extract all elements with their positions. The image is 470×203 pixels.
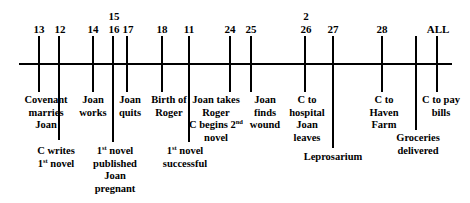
- chapter-25: 25: [236, 23, 266, 35]
- tick-24: [229, 36, 231, 92]
- label-c-to-haven-farm: C to Haven Farm: [369, 94, 398, 132]
- chapter-12: 12: [45, 23, 75, 35]
- tick-unlabeled: [415, 36, 417, 130]
- tick-25: [250, 36, 252, 92]
- label-c-to-pay-bills: C to pay bills: [422, 94, 460, 119]
- chapter-26: 26: [291, 23, 321, 35]
- timeline-axis: [19, 63, 452, 65]
- chapter-17: 17: [113, 23, 143, 35]
- tick-28: [381, 36, 383, 92]
- label-joan-finds-wound: Joan finds wound: [250, 94, 280, 132]
- label-leprosarium: Leprosarium: [304, 151, 363, 164]
- label-covenant-marries-joan: Covenant marries Joan: [24, 94, 67, 132]
- label-joan-quits: Joan quits: [119, 94, 141, 119]
- tick-14: [92, 36, 94, 92]
- tick-all: [436, 36, 438, 92]
- chapter-11: 11: [174, 23, 204, 35]
- label-first-novel-successful: 1st novel successful: [163, 145, 207, 170]
- label-groceries-delivered: Groceries delivered: [396, 132, 440, 157]
- label-birth-of-roger: Birth of Roger: [151, 94, 186, 119]
- label-first-novel-published: 1st novel published Joan pregnant: [93, 145, 137, 195]
- label-joan-works: Joan works: [79, 94, 106, 119]
- label-c-writes-first-novel: C writes 1st novel: [37, 145, 75, 170]
- tick-16: [112, 36, 114, 142]
- chapter-18: 18: [147, 23, 177, 35]
- tick-26: [304, 36, 306, 92]
- label-c-to-hospital: C to hospital Joan leaves: [289, 94, 325, 144]
- chapter-all: ALL: [423, 23, 453, 35]
- tick-13: [38, 36, 40, 92]
- chapter-15: 15: [99, 10, 129, 22]
- tick-27: [332, 36, 334, 148]
- tick-17: [126, 36, 128, 92]
- chapter-28: 28: [367, 23, 397, 35]
- chapter-2: 2: [291, 10, 321, 22]
- tick-18: [161, 36, 163, 92]
- chapter-27: 27: [318, 23, 348, 35]
- label-joan-takes-roger: Joan takes Roger C begins 2nd novel: [189, 94, 243, 144]
